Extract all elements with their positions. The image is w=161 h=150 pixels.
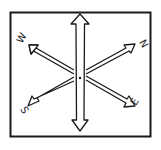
- compass-diagram: W N S E: [0, 0, 161, 150]
- label-w: W: [14, 31, 29, 45]
- center-dot: [79, 77, 81, 79]
- label-n: N: [137, 38, 150, 50]
- label-s: S: [18, 105, 31, 116]
